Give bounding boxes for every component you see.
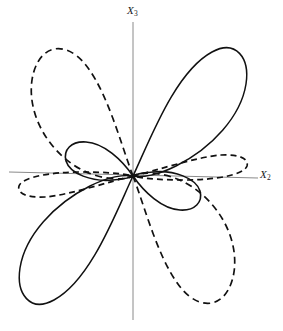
x2-axis-label-subscript: 2: [267, 173, 271, 182]
polar-plot-canvas: [0, 0, 283, 331]
lobe-small-lower-right: [133, 172, 201, 210]
x3-axis-label-symbol: X: [127, 4, 134, 16]
x2-axis-label-symbol: X: [260, 168, 267, 180]
lobe-large-upper-right: [133, 48, 247, 177]
x3-axis-label: X3: [127, 4, 137, 16]
x3-axis-label-subscript: 3: [134, 9, 138, 18]
polar-lobe-figure: X3 X2: [0, 0, 283, 331]
lobe-large-upper-left: [31, 49, 133, 179]
lobe-large-lower-left: [19, 175, 133, 304]
x2-axis-label: X2: [260, 168, 270, 180]
lobe-large-lower-right: [133, 173, 235, 303]
